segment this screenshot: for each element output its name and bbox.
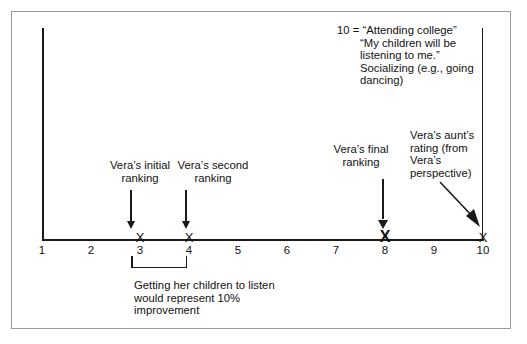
marker-final-ranking: X — [373, 229, 397, 245]
horizontal-scale-axis — [42, 239, 484, 241]
label-aunt-rating: Vera’s aunt’s rating (from Vera’s perspe… — [410, 129, 486, 179]
bracket-3-to-4 — [131, 256, 187, 268]
legend-note: 10 = “Attending college” “My children wi… — [337, 24, 497, 87]
scaling-question-figure: 1 2 3 4 5 6 7 8 9 10 X X X X 10 = “Atten… — [0, 0, 527, 344]
arrow-down-icon-second — [180, 190, 192, 229]
legend-note-line-4: Socializing (e.g., going — [337, 62, 497, 75]
tick-label-6: 6 — [272, 244, 302, 257]
arrow-down-icon-final — [376, 179, 390, 229]
label-initial-ranking: Vera’s initial ranking — [104, 159, 176, 184]
vertical-axis-line — [42, 28, 44, 241]
marker-aunt-rating: X — [471, 231, 495, 244]
tick-label-8: 8 — [370, 244, 400, 257]
label-second-ranking: Vera’s second ranking — [176, 159, 250, 184]
marker-second-ranking: X — [177, 231, 201, 244]
tick-label-2: 2 — [76, 244, 106, 257]
tick-label-5: 5 — [223, 244, 253, 257]
label-final-ranking: Vera’s final ranking — [322, 143, 400, 168]
legend-note-line-3: listening to me.” — [337, 49, 497, 62]
legend-note-line-5: dancing) — [337, 74, 497, 87]
legend-note-line-1: 10 = “Attending college” — [337, 24, 497, 37]
marker-initial-ranking: X — [128, 231, 152, 244]
tick-label-1: 1 — [27, 244, 57, 257]
tick-label-7: 7 — [321, 244, 351, 257]
tick-label-9: 9 — [419, 244, 449, 257]
arrow-diagonal-icon-aunt — [436, 178, 488, 232]
label-bracket-note: Getting her children to listen would rep… — [134, 279, 284, 317]
arrow-down-icon-initial — [125, 190, 137, 229]
tick-label-10: 10 — [468, 244, 498, 257]
legend-note-line-2: “My children will be — [337, 37, 497, 50]
